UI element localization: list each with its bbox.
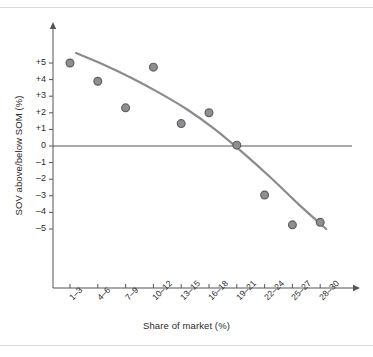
y-axis-tick-label: +2 [20,107,46,117]
y-axis-tick-label: +4 [20,74,46,84]
data-points [66,59,324,229]
data-point [205,109,213,117]
y-axis-tick-label: –4 [20,206,46,216]
y-axis-tick-label: –5 [20,223,46,233]
data-point [316,218,324,226]
data-point [289,221,297,229]
data-point [122,104,130,112]
y-axis-tick-label: –2 [20,173,46,183]
data-point [177,120,185,128]
y-axis-tick-label: 0 [20,140,46,150]
chart-page: +5+4+3+2+10–1–2–3–4–5 1–34–67–910–1213–1… [0,0,373,357]
data-point [94,77,102,85]
y-axis-tick-label: –3 [20,190,46,200]
y-axis-title: SOV above/below SOM (%) [13,76,24,236]
y-axis-tick-label: +3 [20,90,46,100]
data-point [261,191,269,199]
y-axis-tick-label: –1 [20,157,46,167]
data-point [66,59,74,67]
data-point [233,141,241,149]
trend-curve [76,53,326,229]
scatter-chart [0,0,373,357]
x-axis-title: Share of market (%) [0,320,373,331]
data-point [150,63,158,71]
axes-group [49,22,360,291]
chart-svg [0,0,373,357]
y-axis-tick-label: +1 [20,123,46,133]
y-axis-tick-label: +5 [20,57,46,67]
